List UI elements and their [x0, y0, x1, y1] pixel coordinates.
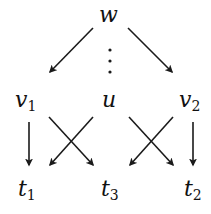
node-t1: t1 [18, 176, 36, 203]
node-v2: v2 [179, 87, 200, 114]
node-w: w [99, 2, 118, 27]
node-t3: t3 [101, 176, 119, 203]
node-v1: v1 [15, 87, 36, 114]
node-t2: t2 [184, 176, 202, 203]
node-u: u [102, 87, 116, 112]
ellipsis-dots [108, 48, 111, 73]
edge-w-v2 [128, 28, 172, 72]
graph-diagram: w v1 u v2 t1 t3 t2 [0, 0, 211, 214]
edge-w-v1 [50, 28, 93, 72]
